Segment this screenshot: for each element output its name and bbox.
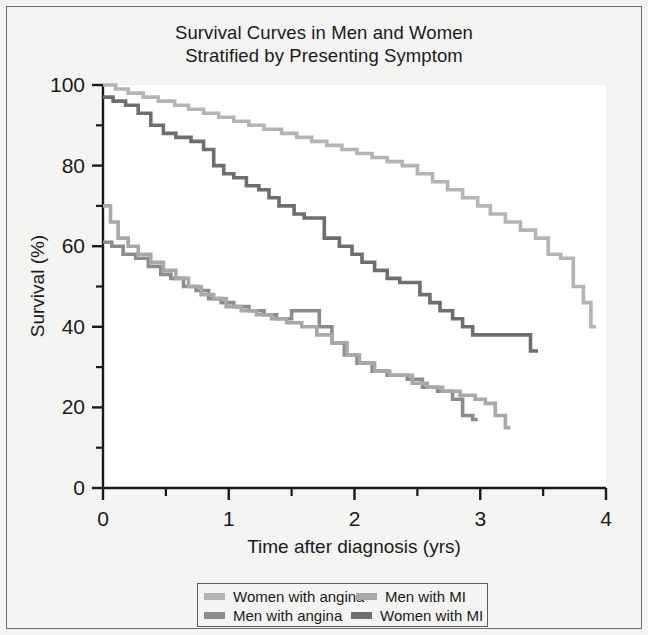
- x-tick-label: 1: [223, 507, 235, 530]
- legend-item-women-with-mi[interactable]: Women with MI: [351, 608, 481, 623]
- y-axis-tick-labels: 020406080100: [50, 73, 85, 499]
- y-tick-label: 100: [50, 73, 85, 96]
- plot-area: 020406080100 01234 Survival (%) Time aft…: [0, 0, 648, 635]
- x-axis-label: Time after diagnosis (yrs): [247, 536, 461, 557]
- legend-row: Men with angina Women with MI: [204, 606, 481, 625]
- legend-item-men-with-mi[interactable]: Men with MI: [356, 589, 481, 604]
- legend-swatch-men-with-angina: [204, 612, 225, 619]
- y-axis-label: Survival (%): [27, 235, 48, 337]
- legend-item-women-with-angina[interactable]: Women with angina: [204, 589, 356, 604]
- x-axis-tick-labels: 01234: [97, 507, 612, 530]
- legend-swatch-women-with-angina: [204, 593, 225, 600]
- y-tick-label: 60: [62, 234, 85, 257]
- legend-label-men-with-angina: Men with angina: [233, 608, 342, 623]
- x-tick-label: 4: [600, 507, 612, 530]
- y-tick-label: 40: [62, 315, 85, 338]
- figure-container: Survival Curves in Men and Women Stratif…: [0, 0, 648, 635]
- legend-swatch-men-with-mi: [356, 593, 377, 600]
- legend-item-men-with-angina[interactable]: Men with angina: [204, 608, 351, 623]
- legend-row: Women with angina Men with MI: [204, 587, 481, 606]
- x-tick-label: 3: [474, 507, 486, 530]
- chart-legend: Women with angina Men with MI Men with a…: [197, 583, 488, 627]
- legend-label-women-with-angina: Women with angina: [233, 589, 364, 604]
- legend-swatch-women-with-mi: [351, 612, 372, 619]
- plot-background: [103, 85, 606, 488]
- y-tick-label: 20: [62, 395, 85, 418]
- x-tick-label: 0: [97, 507, 109, 530]
- legend-label-men-with-mi: Men with MI: [385, 589, 466, 604]
- x-tick-label: 2: [349, 507, 361, 530]
- y-tick-label: 80: [62, 154, 85, 177]
- y-tick-label: 0: [73, 476, 85, 499]
- legend-label-women-with-mi: Women with MI: [380, 608, 483, 623]
- x-axis-major-ticks: [103, 488, 606, 500]
